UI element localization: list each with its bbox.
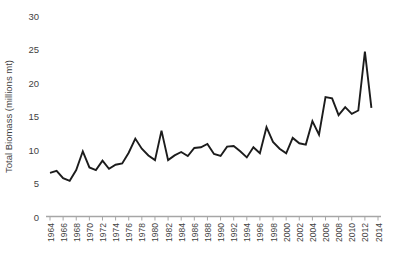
x-tick-label: 2004 (308, 223, 318, 242)
x-tick-label: 1990 (216, 223, 226, 242)
x-tick-label: 2008 (334, 223, 344, 242)
x-tick-label: 1984 (177, 223, 187, 242)
x-tick-label: 1966 (59, 223, 69, 242)
x-tick-label: 2006 (321, 223, 331, 242)
x-tick-label: 1996 (255, 223, 265, 242)
x-tick-label: 1970 (85, 223, 95, 242)
y-tick-label: 15 (28, 111, 39, 122)
x-tick-label: 1992 (229, 223, 239, 242)
y-tick-label: 5 (34, 178, 39, 189)
x-tick-label: 2010 (347, 223, 357, 242)
y-tick-label: 30 (28, 11, 39, 22)
x-tick-label: 1998 (269, 223, 279, 242)
x-tick-label: 2012 (360, 223, 370, 242)
x-tick-label: 1972 (98, 223, 108, 242)
x-tick-label: 1980 (150, 223, 160, 242)
x-tick-label: 1994 (242, 223, 252, 242)
x-tick-label: 1964 (46, 223, 56, 242)
x-tick-label: 1988 (203, 223, 213, 242)
total-biomass-chart: Total Biomass (millions mt)0510152025301… (0, 0, 398, 261)
x-tick-label: 1982 (164, 223, 174, 242)
y-tick-label: 10 (28, 145, 39, 156)
x-tick-label: 1968 (72, 223, 82, 242)
x-tick-label: 2014 (374, 223, 384, 242)
x-tick-label: 2002 (295, 223, 305, 242)
y-tick-label: 0 (34, 212, 39, 223)
y-axis-title: Total Biomass (millions mt) (3, 60, 14, 173)
biomass-line-series (50, 52, 371, 181)
x-tick-label: 1974 (111, 223, 121, 242)
x-tick-label: 1978 (137, 223, 147, 242)
y-tick-label: 20 (28, 78, 39, 89)
x-tick-label: 2000 (282, 223, 292, 242)
x-tick-label: 1976 (124, 223, 134, 242)
chart-canvas: Total Biomass (millions mt)0510152025301… (0, 0, 398, 261)
y-tick-label: 25 (28, 44, 39, 55)
x-tick-label: 1986 (190, 223, 200, 242)
